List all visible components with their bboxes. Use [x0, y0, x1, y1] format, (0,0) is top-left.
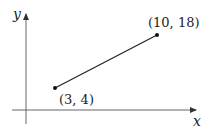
- coordinate-diagram: y x (3, 4) (10, 18): [0, 0, 211, 135]
- x-axis-label: x: [193, 113, 201, 129]
- y-axis-label: y: [12, 6, 22, 22]
- line-segment: [55, 35, 157, 88]
- point-10-18: [155, 33, 159, 37]
- point-3-4: [53, 86, 57, 90]
- point-label-start: (3, 4): [59, 92, 94, 107]
- point-label-end: (10, 18): [148, 15, 200, 30]
